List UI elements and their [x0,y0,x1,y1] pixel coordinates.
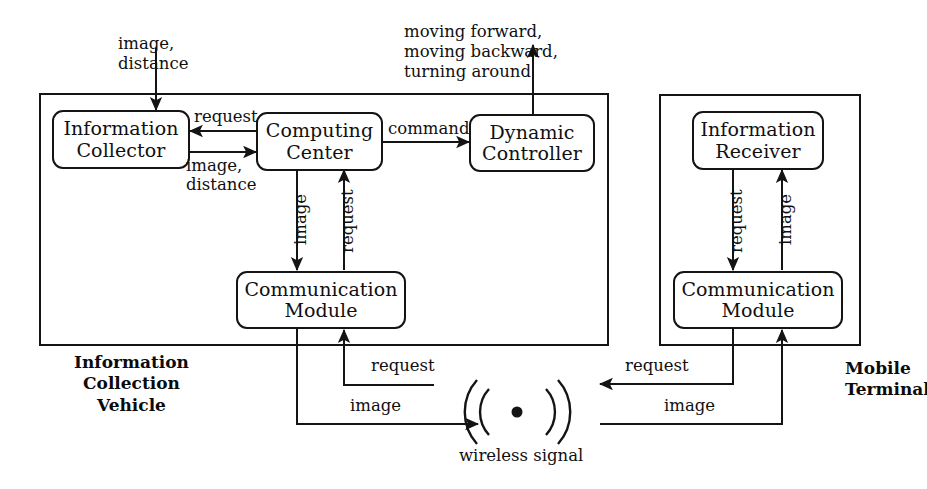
node-information-receiver[interactable]: Information Receiver [692,111,824,170]
edge-label-image-terminal-uplink: image [664,397,715,416]
actuator-output-label-line-2: moving backward, [404,42,558,62]
node-information-receiver-line-1: Information [700,119,815,140]
group-label-vehicle-line-3: Vehicle [44,395,219,416]
sensor-input-label: image, distance [118,34,188,74]
edge-label-image-distance-line-1: image, [186,157,256,176]
group-label-vehicle-line-2: Collection [44,373,219,394]
group-label-terminal-line-1: Mobile [845,358,925,379]
group-label-vehicle: Information Collection Vehicle [44,352,219,416]
node-computing-center-line-2: Center [286,142,353,163]
diagram-canvas: Information Collector Computing Center D… [0,0,927,489]
edge-label-request-terminal-downlink: request [625,357,689,376]
group-label-terminal-line-2: Terminal [845,379,925,400]
node-terminal-communication-module[interactable]: Communication Module [673,271,843,329]
edge-label-request-ir-to-tcm: request [728,189,747,253]
edge-label-request-vehicle-uplink: request [371,357,435,376]
wireless-signal-caption: wireless signal [459,446,583,465]
node-information-receiver-line-2: Receiver [715,141,800,162]
sensor-input-label-line-1: image, [118,34,188,54]
edge-label-request-vcm-to-cc: request [339,189,358,253]
node-vehicle-communication-module-line-1: Communication [244,279,397,300]
edge-label-image-distance-ic-to-cc: image, distance [186,157,256,195]
node-computing-center-line-1: Computing [266,120,373,141]
actuator-output-label-line-1: moving forward, [404,22,558,42]
edge-label-request-cc-to-ic: request [194,108,258,127]
node-terminal-communication-module-line-2: Module [721,300,794,321]
edge-label-image-tcm-to-ir: image [777,194,796,245]
group-label-vehicle-line-1: Information [44,352,219,373]
node-information-collector-line-1: Information [63,118,178,139]
edge-label-image-cc-to-vcm: image [292,194,311,245]
node-terminal-communication-module-line-1: Communication [681,279,834,300]
node-dynamic-controller-line-2: Controller [482,143,582,164]
sensor-input-label-line-2: distance [118,54,188,74]
node-vehicle-communication-module-line-2: Module [284,300,357,321]
wireless-signal-center-dot [512,407,523,418]
actuator-output-label-line-3: turning around [404,62,558,82]
node-computing-center[interactable]: Computing Center [256,112,383,171]
node-information-collector-line-2: Collector [76,140,165,161]
edge-label-image-distance-line-2: distance [186,176,256,195]
node-vehicle-communication-module[interactable]: Communication Module [236,271,406,329]
node-information-collector[interactable]: Information Collector [52,110,190,169]
edge-label-command: command [388,120,470,139]
actuator-output-label: moving forward, moving backward, turning… [404,22,558,81]
node-dynamic-controller-line-1: Dynamic [490,122,575,143]
node-dynamic-controller[interactable]: Dynamic Controller [469,114,595,172]
edge-label-image-vehicle-downlink: image [350,397,401,416]
group-label-terminal: Mobile Terminal [845,358,925,401]
